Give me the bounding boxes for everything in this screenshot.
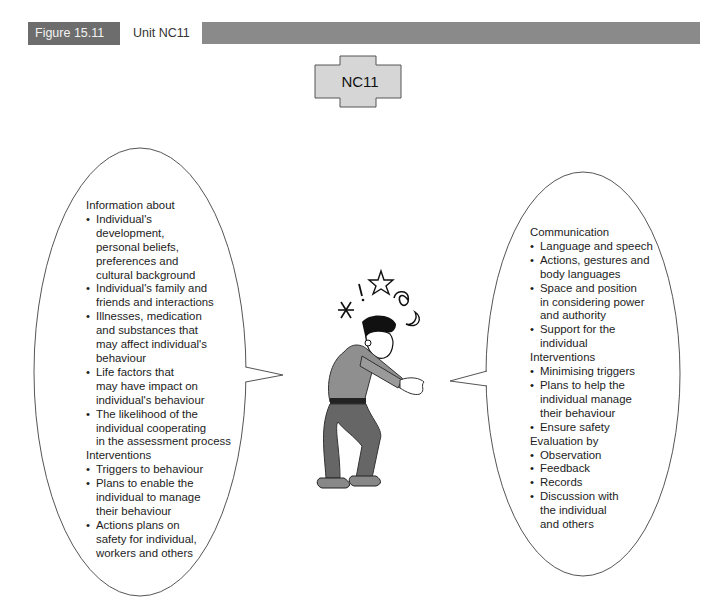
list-item: Actions plans on safety for individual, … xyxy=(86,519,261,561)
section-heading: Communication xyxy=(530,226,680,240)
bullet-list: Individual's development, personal belie… xyxy=(86,213,261,449)
section-heading: Interventions xyxy=(530,351,680,365)
stressed-man-illustration xyxy=(317,271,424,488)
list-item: Illnesses, medication and substances tha… xyxy=(86,310,261,366)
list-item: Actions, gestures and body languages xyxy=(530,254,680,282)
list-item: Life factors that may have impact on ind… xyxy=(86,366,261,408)
list-item: The likelihood of the individual coopera… xyxy=(86,408,261,450)
star-icon xyxy=(369,271,393,294)
list-item: Individual's family and friends and inte… xyxy=(86,282,261,310)
list-item: Plans to help the individual manage thei… xyxy=(530,379,680,421)
left-bubble-text: Information about Individual's developme… xyxy=(86,199,261,561)
list-item: Language and speech xyxy=(530,240,680,254)
section-heading: Interventions xyxy=(86,449,261,463)
exclamation-icon xyxy=(359,284,364,301)
list-item: Support for the individual xyxy=(530,323,680,351)
list-item: Individual's development, personal belie… xyxy=(86,213,261,283)
spiral-icon xyxy=(394,292,408,306)
asterisk-icon xyxy=(338,302,354,318)
list-item: Triggers to behaviour xyxy=(86,463,261,477)
bullet-list: Language and speech Actions, gestures an… xyxy=(530,240,680,351)
list-item: Space and position in considering power … xyxy=(530,282,680,324)
list-item: Minimising triggers xyxy=(530,365,680,379)
crescent-moon-icon xyxy=(406,312,419,326)
list-item: Ensure safety xyxy=(530,421,680,435)
bullet-list: Minimising triggers Plans to help the in… xyxy=(530,365,680,435)
list-item: Plans to enable the individual to manage… xyxy=(86,477,261,519)
bullet-list: Observation Feedback Records Discussion … xyxy=(530,449,680,532)
list-item: Records xyxy=(530,476,680,490)
section-heading: Evaluation by xyxy=(530,435,680,449)
list-item: Observation xyxy=(530,449,680,463)
bullet-list: Triggers to behaviour Plans to enable th… xyxy=(86,463,261,560)
unit-box-label: NC11 xyxy=(320,60,400,104)
list-item: Feedback xyxy=(530,462,680,476)
list-item: Discussion with the individual and other… xyxy=(530,490,680,532)
right-bubble-text: Communication Language and speech Action… xyxy=(530,226,680,532)
section-heading: Information about xyxy=(86,199,261,213)
